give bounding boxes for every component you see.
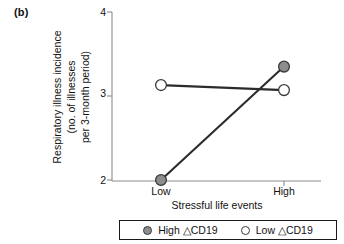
legend-item-high[interactable]: High △CD19 xyxy=(143,224,217,236)
legend-item-low[interactable]: Low △CD19 xyxy=(241,224,313,236)
series-line-0 xyxy=(161,67,284,180)
data-point-0-1[interactable] xyxy=(279,61,290,72)
legend: High △CD19 Low △CD19 xyxy=(119,220,337,240)
figure-panel: (b) Respiratory illness incidence (no. o… xyxy=(0,0,344,244)
data-point-0-0[interactable] xyxy=(156,175,167,186)
chart-canvas xyxy=(0,0,344,212)
open-circle-icon xyxy=(241,226,250,235)
x-tick-label-high: High xyxy=(254,185,314,197)
legend-label-high: High △CD19 xyxy=(158,224,217,236)
data-point-1-0[interactable] xyxy=(156,80,167,91)
legend-label-low: Low △CD19 xyxy=(256,224,313,236)
filled-circle-icon xyxy=(143,226,152,235)
y-tick-label-4: 4 xyxy=(92,7,106,17)
y-tick-2: 2 xyxy=(92,175,106,185)
y-tick-label-2: 2 xyxy=(92,175,106,185)
y-tick-4: 4 xyxy=(92,7,106,17)
data-point-1-1[interactable] xyxy=(279,85,290,96)
x-axis-label: Stressful life events xyxy=(112,199,322,211)
y-tick-label-3: 3 xyxy=(92,88,106,98)
series-line-1 xyxy=(161,85,284,90)
x-tick-label-low: Low xyxy=(131,185,191,197)
y-tick-3: 3 xyxy=(92,88,106,98)
plot-area: 4 3 2 Low High Stressful life events xyxy=(0,0,344,212)
